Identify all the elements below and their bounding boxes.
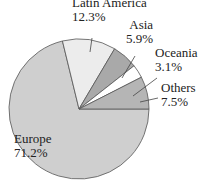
label-others-name: Others [161, 81, 196, 95]
label-oceania-pct: 3.1% [155, 60, 198, 74]
label-others-pct: 7.5% [161, 95, 196, 109]
label-oceania-name: Oceania [155, 46, 198, 60]
label-asia-name: Asia [126, 18, 153, 32]
label-oceania: Oceania 3.1% [155, 46, 198, 74]
label-others: Others 7.5% [161, 81, 196, 109]
label-asia-pct: 5.9% [126, 32, 153, 46]
label-europe-name: Europe [14, 132, 52, 146]
label-europe-pct: 71.2% [14, 146, 52, 160]
label-europe: Europe 71.2% [14, 132, 52, 160]
label-asia: Asia 5.9% [126, 18, 153, 46]
